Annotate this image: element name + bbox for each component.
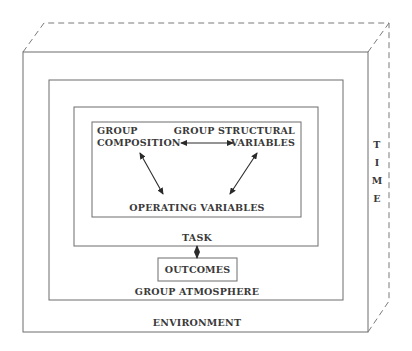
outcomes-label: OUTCOMES xyxy=(165,264,231,275)
group-model-diagram: GROUP COMPOSITION GROUP STRUCTURAL VARIA… xyxy=(0,0,412,351)
time-dashed-diagonal xyxy=(368,23,389,52)
time-letter-m: M xyxy=(372,175,383,186)
composition-operating-arrow-icon xyxy=(140,153,163,194)
group-atmosphere-label: GROUP ATMOSPHERE xyxy=(135,286,259,297)
group-structural-label-line1: GROUP STRUCTURAL xyxy=(174,125,295,136)
group-composition-label-line1: GROUP xyxy=(97,125,138,136)
environment-label: ENVIRONMENT xyxy=(153,317,241,328)
group-composition-label-line2: COMPOSITION xyxy=(97,137,181,148)
time-letter-i: I xyxy=(375,157,380,168)
operating-variables-label: OPERATING VARIABLES xyxy=(129,202,264,213)
time-letter-t: T xyxy=(373,139,380,150)
group-structural-label-line2: VARIABLES xyxy=(230,137,295,148)
time-letter-e: E xyxy=(373,193,380,204)
task-label: TASK xyxy=(182,232,212,243)
structural-operating-arrow-icon xyxy=(230,153,257,194)
